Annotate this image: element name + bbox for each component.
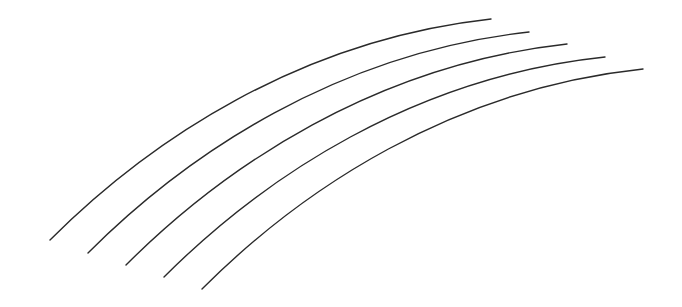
- arcs-drawing: [0, 0, 682, 307]
- arc-3: [126, 44, 567, 265]
- drawing-canvas: [0, 0, 682, 307]
- arc-5: [202, 69, 643, 289]
